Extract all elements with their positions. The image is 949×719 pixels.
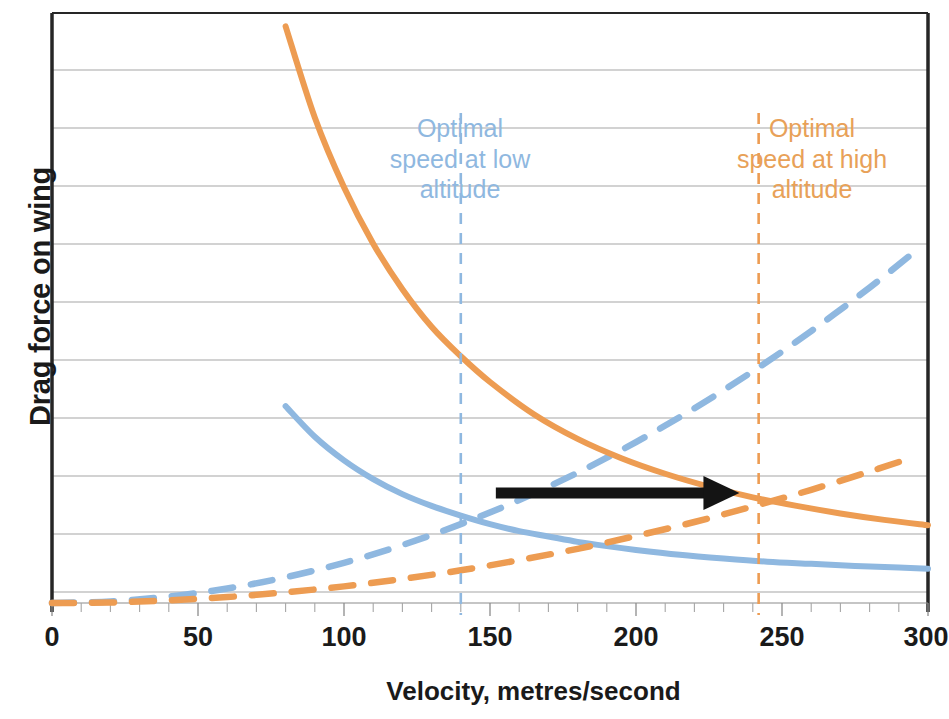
x-tick-0: 0 [44, 622, 59, 653]
annotation-optimal-speed-high-altitude: Optimal speed at high altitude [712, 113, 912, 205]
x-tick-150: 150 [467, 622, 512, 653]
series-parasitic-drag-high-altitude [52, 457, 913, 603]
x-axis-major-ticks [52, 603, 928, 616]
x-tick-100: 100 [321, 622, 366, 653]
x-axis-label: Velocity, metres/second [0, 676, 947, 707]
shift-arrow-head [703, 476, 739, 510]
x-tick-200: 200 [613, 622, 658, 653]
x-tick-300: 300 [903, 622, 948, 653]
y-axis-label: Drag force on wing [24, 117, 57, 477]
annotation-optimal-speed-low-altitude: Optimal speed at low altitude [360, 113, 560, 205]
series-parasitic-drag-low-altitude [52, 253, 913, 603]
x-tick-250: 250 [759, 622, 804, 653]
series-induced-drag-high-altitude [286, 26, 928, 525]
x-tick-50: 50 [183, 622, 213, 653]
